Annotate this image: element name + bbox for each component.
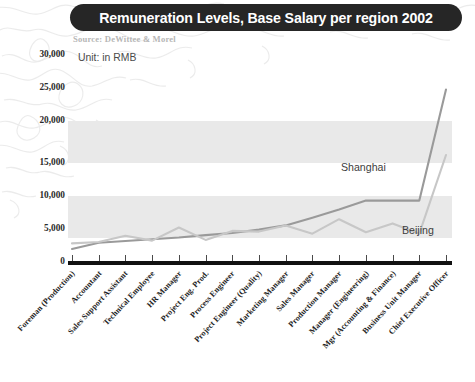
x-tick	[419, 255, 420, 261]
x-axis-category-label: Foreman (Production)	[16, 269, 77, 333]
x-tick	[152, 255, 153, 261]
x-tick	[206, 255, 207, 261]
x-tick	[393, 255, 394, 261]
x-axis-category-label: Project Eng. Prod.	[159, 269, 210, 323]
x-tick	[446, 255, 447, 261]
x-tick	[232, 255, 233, 261]
x-tick	[339, 255, 340, 261]
x-tick	[312, 255, 313, 261]
x-tick	[366, 255, 367, 261]
x-tick	[125, 255, 126, 261]
x-axis-labels: Foreman (Production)AccountantSales Supp…	[0, 265, 475, 382]
x-tick	[286, 255, 287, 261]
series-label-beijing: Beijing	[402, 224, 434, 236]
x-tick	[99, 255, 100, 261]
series-label-shanghai: Shanghai	[341, 161, 386, 173]
x-tick	[259, 255, 260, 261]
x-tick	[72, 255, 73, 261]
x-tick	[179, 255, 180, 261]
chart-root: Remuneration Levels, Base Salary per reg…	[0, 0, 475, 382]
